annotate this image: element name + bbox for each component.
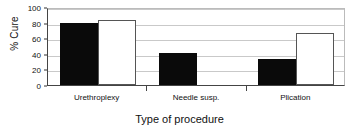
y-tick-label: 80 bbox=[32, 19, 41, 28]
category-separator bbox=[146, 86, 147, 91]
bar-chart-figure: % Cure 020406080100 UrethroplexyNeedle s… bbox=[0, 0, 359, 134]
y-axis-title: % Cure bbox=[9, 4, 20, 64]
y-tick-label: 100 bbox=[28, 4, 41, 13]
y-tick-label: 20 bbox=[32, 66, 41, 75]
bar-filled-2 bbox=[258, 59, 296, 85]
bar-filled-1 bbox=[159, 53, 197, 85]
plot-area bbox=[47, 8, 345, 86]
x-category-label: Needle susp. bbox=[173, 93, 220, 102]
x-axis-title: Type of procedure bbox=[0, 113, 359, 125]
bar-open-0 bbox=[98, 20, 136, 85]
y-tick-label: 0 bbox=[37, 82, 41, 91]
bar-filled-0 bbox=[60, 23, 98, 85]
x-category-label: Urethroplexy bbox=[74, 93, 119, 102]
x-category-label: Plication bbox=[280, 93, 310, 102]
bar-series-container bbox=[48, 9, 344, 85]
category-separator bbox=[246, 86, 247, 91]
bar-open-2 bbox=[296, 33, 334, 85]
y-tick-label: 40 bbox=[32, 50, 41, 59]
y-tick-label: 60 bbox=[32, 35, 41, 44]
y-axis-tick-labels: 020406080100 bbox=[22, 8, 44, 86]
